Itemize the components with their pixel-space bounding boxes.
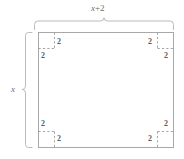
corner-top-left-horizontal-label: 2 [41,52,45,60]
corner-bottom-left-vertical-label: 2 [57,135,61,143]
corner-bottom-left-horizontal-label: 2 [41,120,45,128]
rectangle-outline [39,33,174,148]
corner-top-left-vertical-label: 2 [57,38,61,46]
left-dimension-brace [23,33,33,148]
left-dimension-label: x [11,85,15,94]
corner-bottom-right-vertical-label: 2 [148,135,152,143]
figure-canvas [0,0,184,159]
geometry-figure: x+2 x 2 2 2 2 2 2 2 2 [0,0,184,159]
top-dimension-brace [35,18,174,30]
corner-top-right-vertical-label: 2 [148,38,152,46]
top-dimension-label: x+2 [91,4,105,13]
corner-bottom-right-horizontal-label: 2 [164,120,168,128]
top-dimension-number: 2 [100,3,105,13]
corner-top-right-horizontal-label: 2 [164,52,168,60]
